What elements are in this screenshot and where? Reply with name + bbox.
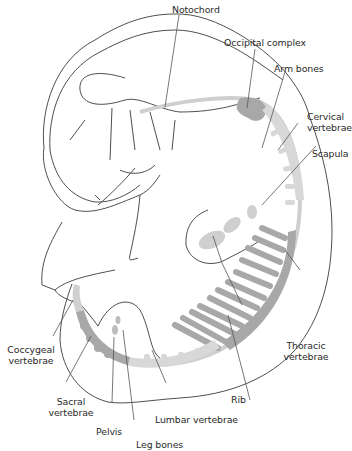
pelvis-leg-bone-shapes bbox=[112, 316, 121, 335]
label-occipital-complex: Occipital complex bbox=[224, 37, 306, 48]
label-sacral-vertebrae: Sacral vertebrae bbox=[46, 396, 96, 418]
label-pelvis: Pelvis bbox=[96, 426, 122, 437]
label-thoracic-vertebrae: Thoracic vertebrae bbox=[271, 340, 341, 362]
rib-shapes bbox=[175, 228, 285, 348]
cervical-vertebrae-shapes bbox=[262, 105, 304, 205]
label-cervical-vertebrae: Cervical vertebrae bbox=[307, 111, 352, 133]
label-scapula: Scapula bbox=[312, 148, 348, 159]
label-leg-bones: Leg bones bbox=[136, 439, 183, 450]
label-notochord: Notochord bbox=[172, 4, 220, 15]
sacral-vertebrae-shapes bbox=[76, 310, 130, 365]
label-arm-bones: Arm bones bbox=[274, 63, 324, 74]
label-lumbar-vertebrae: Lumbar vertebrae bbox=[155, 414, 238, 425]
label-rib: Rib bbox=[231, 394, 246, 405]
coccygeal-vertebrae-shape bbox=[73, 284, 84, 312]
label-coccygeal-vertebrae: Coccygeal vertebrae bbox=[2, 344, 60, 366]
